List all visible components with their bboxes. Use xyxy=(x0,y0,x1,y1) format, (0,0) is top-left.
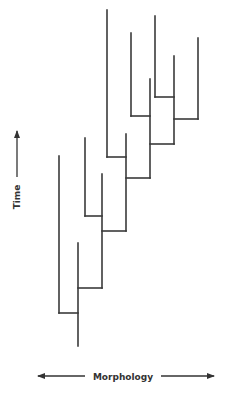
phylogeny-diagram: Time Morphology xyxy=(0,0,228,393)
morphology-axis-label: Morphology xyxy=(93,372,153,382)
phylogenetic-tree xyxy=(59,10,198,346)
time-axis-label: Time xyxy=(12,185,22,210)
time-axis: Time xyxy=(12,131,22,209)
morphology-axis: Morphology xyxy=(38,372,214,382)
